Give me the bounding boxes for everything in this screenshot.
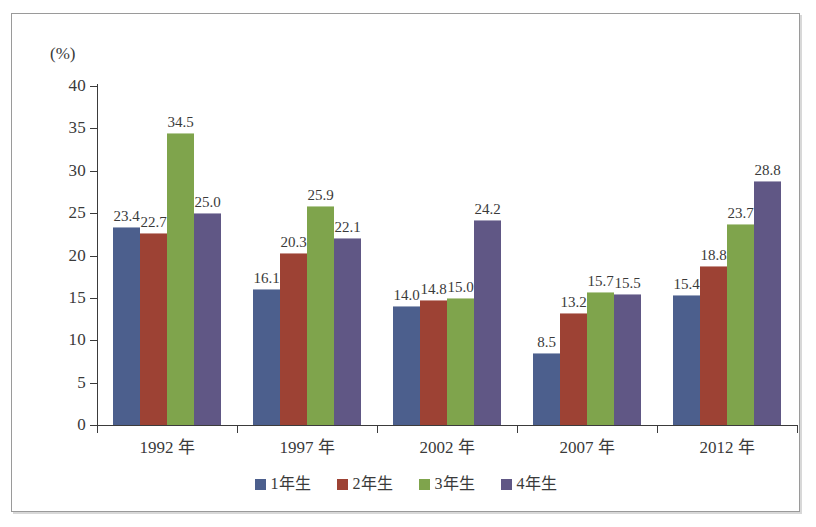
bar-group: 16.120.325.922.1 [237, 86, 377, 425]
y-tick-label: 35 [52, 119, 86, 136]
bar[interactable] [700, 266, 727, 425]
x-tick-mark [377, 426, 378, 433]
legend-label: 1年生 [271, 476, 311, 492]
legend-label: 3年生 [435, 476, 475, 492]
bar-fill [307, 206, 334, 426]
bar-value-label: 28.8 [742, 163, 794, 178]
y-tick-label: 25 [52, 204, 86, 221]
chart-frame: (%) 0510152025303540 1992 年1997 年2002 年2… [11, 13, 800, 512]
bar-fill [587, 292, 614, 425]
y-tick-label: 20 [52, 247, 86, 264]
bar-fill [393, 306, 420, 425]
x-axis-category-label: 2007 年 [517, 437, 657, 459]
bar[interactable] [447, 298, 474, 425]
bar-fill [560, 313, 587, 425]
bar-value-label: 25.0 [182, 195, 234, 210]
bar[interactable] [587, 292, 614, 425]
bar[interactable] [673, 295, 700, 426]
bar-fill [700, 266, 727, 425]
bar-fill [113, 227, 140, 425]
bar-fill [474, 220, 501, 425]
bar-value-label: 25.9 [295, 188, 347, 203]
x-axis-line [96, 425, 798, 426]
x-tick-mark [237, 426, 238, 433]
legend-item-2[interactable]: 2年生 [337, 476, 393, 492]
legend-swatch-icon [255, 479, 266, 490]
y-tick-label: 5 [52, 374, 86, 391]
bar[interactable] [393, 306, 420, 425]
plot-area: 23.422.734.525.016.120.325.922.114.014.8… [97, 86, 797, 425]
bar-fill [280, 253, 307, 425]
legend-item-3[interactable]: 3年生 [419, 476, 475, 492]
bar[interactable] [614, 294, 641, 425]
bar-fill [614, 294, 641, 425]
bar[interactable] [334, 238, 361, 425]
bar[interactable] [307, 206, 334, 426]
x-axis-category-label: 1997 年 [237, 437, 377, 459]
bar[interactable] [754, 181, 781, 425]
y-tick-label: 10 [52, 331, 86, 348]
bar[interactable] [727, 224, 754, 425]
bar-group: 8.513.215.715.5 [517, 86, 657, 425]
bar-fill [194, 213, 221, 425]
bar-value-label: 34.5 [155, 115, 207, 130]
legend-label: 4年生 [517, 476, 557, 492]
x-axis-category-label: 2012 年 [657, 437, 797, 459]
x-axis-category-label: 2002 年 [377, 437, 517, 459]
bar-fill [533, 353, 560, 425]
bar-fill [727, 224, 754, 425]
bar[interactable] [420, 300, 447, 425]
bar-fill [253, 289, 280, 425]
bar-fill [334, 238, 361, 425]
x-tick-mark [797, 426, 798, 433]
legend-swatch-icon [501, 479, 512, 490]
bar[interactable] [113, 227, 140, 425]
legend-swatch-icon [337, 479, 348, 490]
bar[interactable] [560, 313, 587, 425]
x-tick-mark [97, 426, 98, 433]
x-axis-category-label: 1992 年 [97, 437, 237, 459]
y-tick-label: 40 [52, 77, 86, 94]
y-tick-label: 30 [52, 162, 86, 179]
legend-swatch-icon [419, 479, 430, 490]
bar[interactable] [253, 289, 280, 425]
bar[interactable] [140, 233, 167, 425]
legend-item-4[interactable]: 4年生 [501, 476, 557, 492]
bar-fill [167, 133, 194, 425]
y-tick-label: 15 [52, 289, 86, 306]
bar[interactable] [167, 133, 194, 425]
bar-fill [140, 233, 167, 425]
bar-value-label: 22.1 [322, 220, 374, 235]
bar[interactable] [533, 353, 560, 425]
bar-group: 23.422.734.525.0 [97, 86, 237, 425]
bar[interactable] [194, 213, 221, 425]
bar-fill [673, 295, 700, 426]
bar[interactable] [474, 220, 501, 425]
y-axis-unit-label: (%) [50, 44, 75, 64]
bar-fill [420, 300, 447, 425]
bar-fill [447, 298, 474, 425]
bar-value-label: 24.2 [462, 202, 514, 217]
legend-label: 2年生 [353, 476, 393, 492]
x-tick-mark [657, 426, 658, 433]
bar-value-label: 15.5 [602, 276, 654, 291]
bar-group: 14.014.815.024.2 [377, 86, 517, 425]
x-tick-mark [517, 426, 518, 433]
legend-item-1[interactable]: 1年生 [255, 476, 311, 492]
chart-legend: 1年生2年生3年生4年生 [12, 476, 799, 492]
bar-group: 15.418.823.728.8 [657, 86, 797, 425]
bar[interactable] [280, 253, 307, 425]
y-tick-label: 0 [52, 416, 86, 433]
bar-fill [754, 181, 781, 425]
